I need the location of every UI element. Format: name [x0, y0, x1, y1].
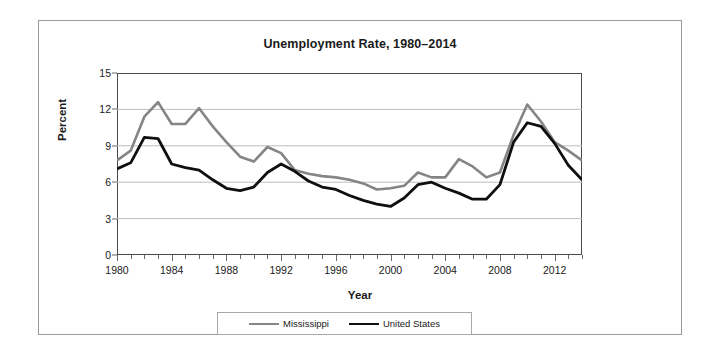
legend-swatch-icon [249, 323, 279, 325]
x-tick-mark [527, 255, 528, 259]
x-tick-mark [199, 255, 200, 259]
x-tick-label: 1988 [206, 264, 246, 276]
x-tick-mark [350, 255, 351, 259]
x-tick-mark [308, 255, 309, 259]
x-tick-mark [432, 255, 433, 259]
x-tick-mark [514, 255, 515, 259]
x-tick-mark [568, 255, 569, 259]
legend-swatch-icon [349, 323, 379, 325]
chart-legend: MississippiUnited States [217, 312, 472, 335]
legend-label: United States [383, 318, 440, 329]
y-axis-ticks: 03691215 [79, 73, 111, 255]
x-tick-mark [500, 255, 501, 261]
x-tick-mark [555, 255, 556, 261]
x-tick-mark [295, 255, 296, 259]
figure-frame: Unemployment Rate, 1980–2014 Percent 036… [38, 20, 682, 335]
x-tick-mark [117, 255, 118, 261]
x-tick-mark [582, 255, 583, 259]
x-axis-ticks: 198019841988199219962000200420082012 [117, 255, 582, 285]
x-tick-mark [131, 255, 132, 259]
x-tick-mark [473, 255, 474, 259]
x-tick-label: 2004 [425, 264, 465, 276]
x-tick-mark [240, 255, 241, 259]
x-tick-mark [281, 255, 282, 261]
x-tick-mark [404, 255, 405, 259]
x-tick-mark [336, 255, 337, 261]
plot-svg [117, 73, 582, 255]
x-tick-label: 2012 [535, 264, 575, 276]
x-tick-mark [377, 255, 378, 259]
x-tick-label: 1980 [97, 264, 137, 276]
legend-item: Mississippi [249, 318, 329, 329]
x-tick-mark [158, 255, 159, 259]
x-tick-label: 1992 [261, 264, 301, 276]
x-tick-mark [486, 255, 487, 259]
x-tick-mark [226, 255, 227, 261]
x-tick-mark [322, 255, 323, 259]
chart-title: Unemployment Rate, 1980–2014 [39, 37, 681, 51]
y-axis-label: Percent [56, 121, 68, 141]
x-tick-label: 1984 [152, 264, 192, 276]
x-tick-label: 2000 [371, 264, 411, 276]
x-tick-mark [445, 255, 446, 261]
x-tick-mark [418, 255, 419, 259]
x-tick-label: 2008 [480, 264, 520, 276]
y-tick-label: 6 [83, 176, 111, 188]
y-tick-label: 3 [83, 213, 111, 225]
plot-wrapper [117, 73, 582, 255]
x-tick-label: 1996 [316, 264, 356, 276]
legend-label: Mississippi [283, 318, 329, 329]
x-tick-mark [391, 255, 392, 261]
x-axis-label: Year [39, 289, 681, 301]
y-tick-label: 0 [83, 249, 111, 261]
y-tick-label: 12 [83, 103, 111, 115]
x-tick-mark [254, 255, 255, 259]
x-tick-mark [144, 255, 145, 259]
x-tick-mark [541, 255, 542, 259]
y-tick-label: 9 [83, 140, 111, 152]
x-tick-mark [459, 255, 460, 259]
x-tick-mark [267, 255, 268, 259]
x-tick-mark [213, 255, 214, 259]
x-tick-mark [185, 255, 186, 259]
x-tick-mark [172, 255, 173, 261]
x-tick-mark [363, 255, 364, 259]
y-tick-label: 15 [83, 67, 111, 79]
legend-item: United States [349, 318, 440, 329]
